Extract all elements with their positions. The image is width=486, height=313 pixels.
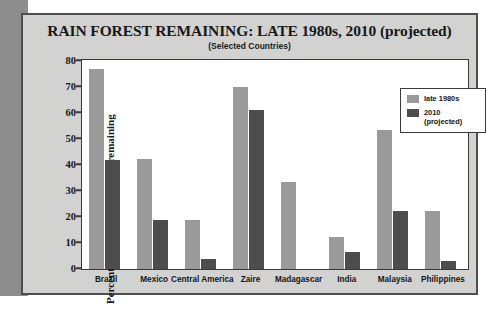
plot-area: Percent of original rain forest remainin… [81,59,469,270]
y-tick-mark [76,137,81,139]
x-axis-label: Central America [171,275,234,284]
x-axis-label: Mexico [140,275,168,284]
y-tick-label: 80 [66,55,77,66]
y-tick-label: 30 [66,185,77,196]
legend-swatch-2010-icon [407,109,419,117]
x-axis-label: Philippines [421,275,465,284]
legend-label-2010: 2010 (projected) [424,108,462,126]
y-tick-label: 70 [66,81,77,92]
x-axis-label: Madagascar [275,275,322,284]
legend-label-late-1980s: late 1980s [424,94,459,103]
x-axis-label: Brazil [95,275,117,284]
y-tick-label: 20 [66,211,77,222]
chart-panel-inner: RAIN FOREST REMAINING: LATE 1980s, 2010 … [23,15,476,293]
legend-swatch-late-1980s-icon [407,95,419,103]
legend-item-2010: 2010 (projected) [407,108,479,126]
screenshot-root: RAIN FOREST REMAINING: LATE 1980s, 2010 … [0,0,486,313]
chart-title: RAIN FOREST REMAINING: LATE 1980s, 2010 … [23,22,476,40]
y-tick-mark [76,163,81,165]
y-tick-mark [76,111,81,113]
y-tick-mark [76,215,81,217]
legend-item-late-1980s: late 1980s [407,94,479,103]
legend-label-2010-line2: (projected) [424,117,462,126]
y-tick-mark [76,189,81,191]
chart-legend: late 1980s 2010 (projected) [400,88,486,133]
y-tick-label: 60 [66,107,77,118]
x-axis-label: Zaire [241,275,261,284]
chart-subtitle: (Selected Countries) [23,41,476,51]
y-tick-mark [76,267,81,269]
y-tick-mark [76,85,81,87]
y-tick-label: 10 [66,237,77,248]
y-tick-mark [76,241,81,243]
y-tick-label: 40 [66,159,77,170]
x-axis-label: Malaysia [378,275,412,284]
legend-label-2010-line1: 2010 [424,108,440,117]
x-axis-label: India [337,275,356,284]
chart-panel: RAIN FOREST REMAINING: LATE 1980s, 2010 … [21,13,478,295]
y-tick-label: 50 [66,133,77,144]
y-tick-mark [76,59,81,61]
